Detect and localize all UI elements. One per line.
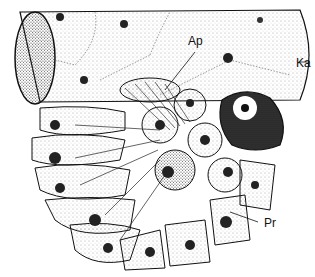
label-ka: Ka — [296, 57, 311, 69]
label-pr: Pr — [264, 217, 276, 229]
label-ap: Ap — [188, 35, 203, 47]
cell-cluster — [32, 89, 283, 270]
illustration — [0, 0, 315, 277]
